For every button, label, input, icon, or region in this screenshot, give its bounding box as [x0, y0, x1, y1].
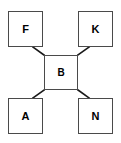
edge-b-f — [33, 47, 44, 55]
node-b-label: B — [57, 68, 64, 78]
node-n[interactable]: N — [78, 98, 113, 134]
edge-b-k — [78, 47, 89, 55]
node-diagram: F K B A N — [0, 0, 121, 143]
node-f[interactable]: F — [8, 11, 43, 47]
node-b[interactable]: B — [44, 55, 78, 90]
edge-b-a — [33, 90, 44, 98]
edge-b-n — [78, 90, 89, 98]
node-a[interactable]: A — [8, 98, 43, 134]
node-a-label: A — [22, 111, 30, 122]
node-k-label: K — [92, 24, 100, 35]
node-f-label: F — [22, 24, 29, 35]
node-k[interactable]: K — [78, 11, 113, 47]
node-n-label: N — [92, 111, 100, 122]
